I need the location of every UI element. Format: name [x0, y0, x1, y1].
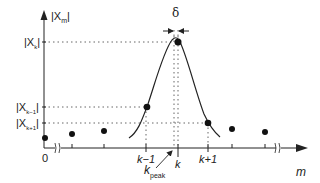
tick-label-k: k: [175, 158, 181, 170]
svg-text:δ: δ: [172, 6, 179, 20]
label-xk-minus-1: |Xk−1|: [16, 101, 39, 115]
sample-point: [101, 128, 107, 134]
sample-point: [69, 131, 75, 137]
x-axis-arrow-icon: [296, 144, 308, 152]
tick-label-origin: 0: [42, 152, 48, 164]
sample-point: [42, 135, 48, 141]
y-level-labels: |Xk| |Xk−1| |Xk+1|: [16, 36, 46, 131]
reference-lines: [44, 30, 208, 148]
k-peak-label: kpeak: [144, 163, 166, 180]
delta-annotation: δ: [163, 6, 189, 31]
spectral-peak-diagram: |Xm| m 0 k−1 k k+1: [0, 0, 320, 183]
sample-point-k-minus-1: [144, 104, 151, 111]
tick-label-k-plus-1: k+1: [199, 153, 217, 165]
y-axis-label: |Xm|: [51, 10, 70, 24]
dft-samples: [42, 39, 268, 142]
sample-point-k: [175, 39, 182, 46]
sample-point: [262, 129, 268, 135]
x-axis-label: m: [296, 165, 306, 179]
k-peak-arrow-icon: [156, 151, 172, 168]
axis-break-left-icon: [55, 143, 60, 153]
label-xk-plus-1: |Xk+1|: [16, 117, 39, 131]
sample-point: [229, 126, 235, 132]
y-axis: |Xm|: [41, 10, 70, 148]
label-xk: |Xk|: [24, 36, 40, 50]
sample-point-k-plus-1: [205, 120, 212, 127]
y-axis-arrow-icon: [41, 10, 48, 20]
axis-break-right-icon: [275, 143, 280, 153]
